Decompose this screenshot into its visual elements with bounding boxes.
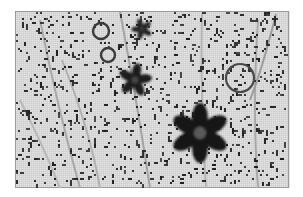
- grid-panel: [15, 11, 290, 188]
- grid-lines: [15, 11, 290, 188]
- noisy-flower-image: [0, 0, 303, 197]
- image-canvas: [0, 0, 303, 197]
